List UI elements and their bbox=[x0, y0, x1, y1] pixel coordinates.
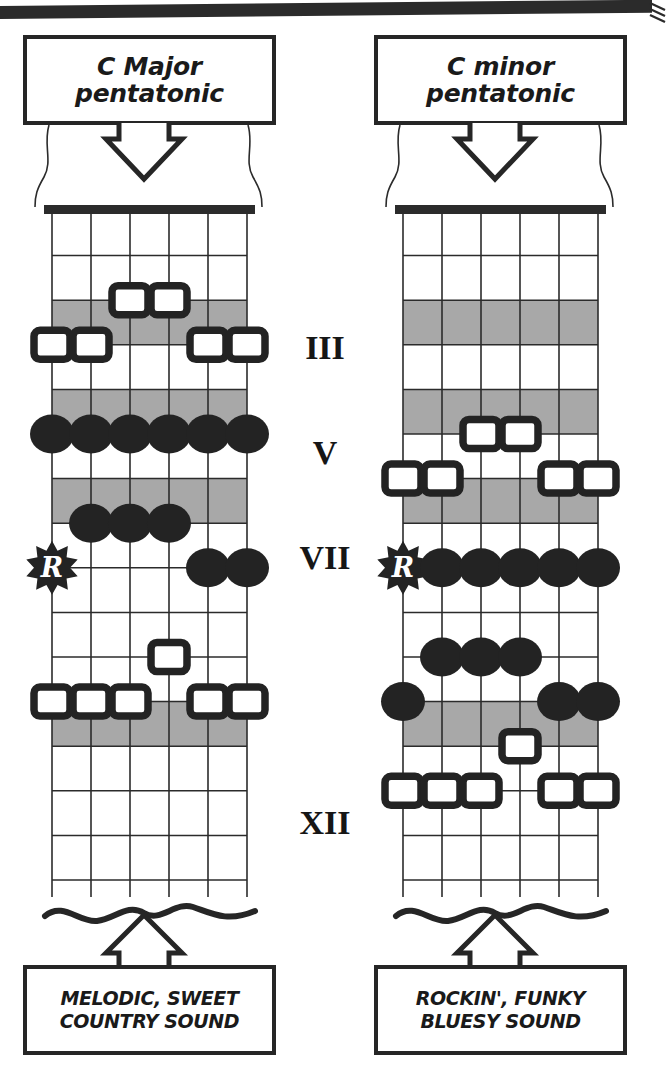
scale-dot-marker[interactable] bbox=[537, 548, 581, 587]
scale-dot-marker[interactable] bbox=[459, 638, 503, 677]
top-rule-decoration bbox=[0, 0, 652, 19]
scale-square-marker[interactable] bbox=[541, 776, 577, 805]
scale-square-marker[interactable] bbox=[385, 464, 421, 493]
scale-square-marker[interactable] bbox=[73, 687, 109, 716]
scale-square-marker[interactable] bbox=[112, 687, 148, 716]
root-note-badge[interactable]: R bbox=[26, 541, 77, 595]
title-box-minor: C minor pentatonic bbox=[374, 35, 627, 125]
pentatonic-comparison-page: C Major pentatonic R MELODIC, SWEET COUN… bbox=[0, 0, 667, 1068]
connector-top-minor bbox=[374, 123, 627, 213]
scale-dot-marker[interactable] bbox=[576, 548, 620, 587]
scale-square-marker[interactable] bbox=[502, 732, 538, 761]
scale-square-marker[interactable] bbox=[190, 687, 226, 716]
scale-square-marker[interactable] bbox=[151, 286, 187, 315]
scale-square-marker[interactable] bbox=[463, 420, 499, 449]
caption-label-major: MELODIC, SWEET COUNTRY SOUND bbox=[60, 987, 239, 1033]
scale-square-marker[interactable] bbox=[502, 420, 538, 449]
scale-dot-marker[interactable] bbox=[537, 682, 581, 721]
scale-square-marker[interactable] bbox=[385, 776, 421, 805]
scale-dot-marker[interactable] bbox=[147, 415, 191, 454]
fret-marker-XII: XII bbox=[286, 806, 364, 840]
fretboard-major: R bbox=[23, 203, 276, 903]
scale-dot-marker[interactable] bbox=[498, 548, 542, 587]
scale-square-marker[interactable] bbox=[580, 464, 616, 493]
nut bbox=[395, 205, 606, 214]
scale-dot-marker[interactable] bbox=[225, 415, 269, 454]
scale-square-marker[interactable] bbox=[229, 330, 265, 359]
scale-square-marker[interactable] bbox=[34, 687, 70, 716]
scale-dot-marker[interactable] bbox=[381, 682, 425, 721]
scale-dot-marker[interactable] bbox=[186, 548, 230, 587]
title-label-minor: C minor pentatonic bbox=[426, 53, 575, 107]
scale-square-marker[interactable] bbox=[34, 330, 70, 359]
root-label: R bbox=[391, 552, 414, 583]
scale-square-marker[interactable] bbox=[190, 330, 226, 359]
scale-dot-marker[interactable] bbox=[147, 504, 191, 543]
scale-dot-marker[interactable] bbox=[498, 638, 542, 677]
scale-dot-marker[interactable] bbox=[576, 682, 620, 721]
scale-square-marker[interactable] bbox=[463, 776, 499, 805]
scale-square-marker[interactable] bbox=[151, 643, 187, 672]
fret-marker-III: III bbox=[286, 331, 364, 365]
caption-box-major: MELODIC, SWEET COUNTRY SOUND bbox=[23, 965, 276, 1055]
root-label: R bbox=[40, 552, 63, 583]
scale-square-marker[interactable] bbox=[424, 776, 460, 805]
scale-square-marker[interactable] bbox=[424, 464, 460, 493]
fret-marker-V: V bbox=[286, 436, 364, 470]
scale-dot-marker[interactable] bbox=[30, 415, 74, 454]
fretboard-minor: R bbox=[374, 203, 627, 903]
scale-dot-marker[interactable] bbox=[108, 415, 152, 454]
caption-label-minor: ROCKIN', FUNKY BLUESY SOUND bbox=[416, 987, 585, 1033]
title-label-major: C Major pentatonic bbox=[75, 53, 224, 107]
scale-square-marker[interactable] bbox=[229, 687, 265, 716]
scale-square-marker[interactable] bbox=[112, 286, 148, 315]
connector-bottom-major bbox=[23, 893, 276, 971]
scale-square-marker[interactable] bbox=[73, 330, 109, 359]
title-box-major: C Major pentatonic bbox=[23, 35, 276, 125]
scale-dot-marker[interactable] bbox=[225, 548, 269, 587]
nut bbox=[44, 205, 255, 214]
scale-dot-marker[interactable] bbox=[420, 548, 464, 587]
fret-shading bbox=[403, 300, 598, 345]
scale-dot-marker[interactable] bbox=[69, 415, 113, 454]
connector-bottom-minor bbox=[374, 893, 627, 971]
scale-dot-marker[interactable] bbox=[420, 638, 464, 677]
scale-dot-marker[interactable] bbox=[108, 504, 152, 543]
connector-top-major bbox=[23, 123, 276, 213]
scale-square-marker[interactable] bbox=[580, 776, 616, 805]
scale-dot-marker[interactable] bbox=[186, 415, 230, 454]
scale-dot-marker[interactable] bbox=[459, 548, 503, 587]
scale-dot-marker[interactable] bbox=[69, 504, 113, 543]
caption-box-minor: ROCKIN', FUNKY BLUESY SOUND bbox=[374, 965, 627, 1055]
scale-square-marker[interactable] bbox=[541, 464, 577, 493]
rule-feather-icon bbox=[649, 0, 667, 36]
fret-marker-VII: VII bbox=[286, 541, 364, 575]
